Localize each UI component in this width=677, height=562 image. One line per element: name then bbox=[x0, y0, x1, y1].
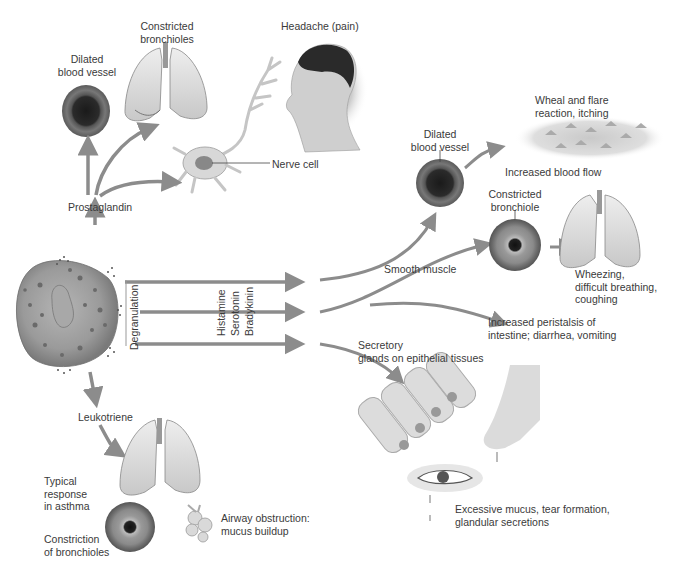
label-secretory-glands: Secretory glands on epithelial tissues bbox=[358, 339, 484, 364]
label-airway-obstruction: Airway obstruction: mucus buildup bbox=[221, 512, 310, 537]
label-wheal-flare: Wheal and flare reaction, itching bbox=[535, 94, 609, 119]
constricted-bronchiole-asthma bbox=[105, 502, 155, 552]
label-excessive-mucus: Excessive mucus, tear formation, glandul… bbox=[455, 503, 610, 528]
mast-cell-illustration bbox=[16, 256, 122, 374]
label-leukotriene: Leukotriene bbox=[78, 411, 133, 424]
label-dilated-blood-vessel-right: Dilated blood vessel bbox=[405, 128, 475, 153]
wheal-skin-illustration bbox=[515, 116, 665, 160]
diagram-canvas: Dilated blood vessel Constricted bronchi… bbox=[0, 0, 677, 562]
label-nerve-cell: Nerve cell bbox=[272, 158, 319, 171]
label-headache: Headache (pain) bbox=[281, 20, 359, 33]
mucus-alveoli-illustration bbox=[186, 505, 212, 542]
label-prostaglandin: Prostaglandin bbox=[68, 201, 132, 214]
lungs-illustration-asthma bbox=[120, 418, 200, 495]
label-increased-peristalsis: Increased peristalsis of intestine; diar… bbox=[488, 316, 616, 341]
lungs-illustration-right bbox=[560, 190, 640, 268]
label-constriction-bronchioles: Constriction of bronchioles bbox=[44, 533, 109, 558]
label-constricted-bronchioles: Constricted bronchioles bbox=[132, 20, 202, 45]
label-dilated-blood-vessel-left: Dilated blood vessel bbox=[52, 53, 122, 78]
label-typical-response-asthma: Typical response in asthma bbox=[44, 475, 90, 513]
headache-face-illustration bbox=[286, 44, 368, 152]
dilated-blood-vessel-illustration-right bbox=[416, 150, 464, 207]
label-smooth-muscle: Smooth muscle bbox=[384, 263, 456, 276]
label-increased-blood-flow: Increased blood flow bbox=[505, 166, 601, 179]
epithelial-cells-illustration bbox=[354, 348, 479, 456]
constricted-bronchiole-right bbox=[489, 210, 541, 271]
label-wheezing: Wheezing, difficult breathing, coughing bbox=[575, 268, 657, 306]
label-serotonin: Serotonin bbox=[229, 291, 241, 336]
nose-illustration bbox=[484, 365, 540, 462]
dilated-blood-vessel-illustration-left bbox=[62, 85, 110, 137]
mediator-arrows bbox=[125, 282, 295, 344]
label-constricted-bronchiole: Constricted bronchiole bbox=[480, 188, 550, 213]
label-bradykinin: Bradykinin bbox=[243, 287, 255, 336]
label-histamine: Histamine bbox=[215, 289, 227, 336]
lungs-illustration-top bbox=[125, 42, 207, 121]
label-degranulation: Degranulation bbox=[128, 285, 140, 350]
